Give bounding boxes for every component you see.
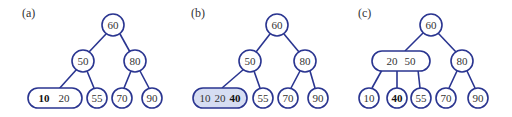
leaf-value: 90 — [473, 92, 485, 104]
node-root-value: 60 — [426, 19, 438, 31]
b-tree-insertion-diagram: (a) 60 50 80 10 20 55 70 90 (b) 60 50 — [0, 0, 512, 117]
leaf-value-bold: 40 — [392, 92, 404, 104]
pill-key: 50 — [405, 55, 417, 67]
node-root-value: 60 — [272, 19, 284, 31]
panel-c: (c) 60 20 50 80 10 40 55 70 90 — [358, 6, 488, 108]
pill-key: 20 — [387, 55, 399, 67]
panel-label: (b) — [191, 6, 205, 20]
pill-key-bold: 40 — [230, 92, 242, 104]
internal-pill — [372, 51, 430, 71]
leaf-value: 70 — [283, 92, 295, 104]
leaf-pill — [28, 88, 82, 108]
leaf-value: 55 — [258, 92, 270, 104]
node-right-value: 80 — [457, 55, 469, 67]
pill-key: 20 — [59, 92, 71, 104]
node-root-value: 60 — [108, 19, 120, 31]
panel-label: (a) — [22, 6, 35, 20]
leaf-value: 70 — [117, 92, 129, 104]
node-left-value: 50 — [78, 55, 90, 67]
node-right-value: 80 — [300, 55, 312, 67]
leaf-value: 90 — [147, 92, 159, 104]
pill-key-bold: 10 — [39, 92, 51, 104]
node-left-value: 50 — [245, 55, 257, 67]
leaf-value: 90 — [313, 92, 325, 104]
pill-key: 10 — [200, 92, 212, 104]
panel-label: (c) — [358, 6, 371, 20]
leaf-value: 10 — [364, 92, 376, 104]
panel-b: (b) 60 50 80 10 20 40 55 70 90 — [191, 6, 328, 108]
leaf-value: 70 — [441, 92, 453, 104]
leaf-value: 55 — [416, 92, 428, 104]
leaf-value: 55 — [92, 92, 104, 104]
pill-key: 20 — [215, 92, 227, 104]
panel-a: (a) 60 50 80 10 20 55 70 90 — [22, 6, 162, 108]
node-right-value: 80 — [130, 55, 142, 67]
